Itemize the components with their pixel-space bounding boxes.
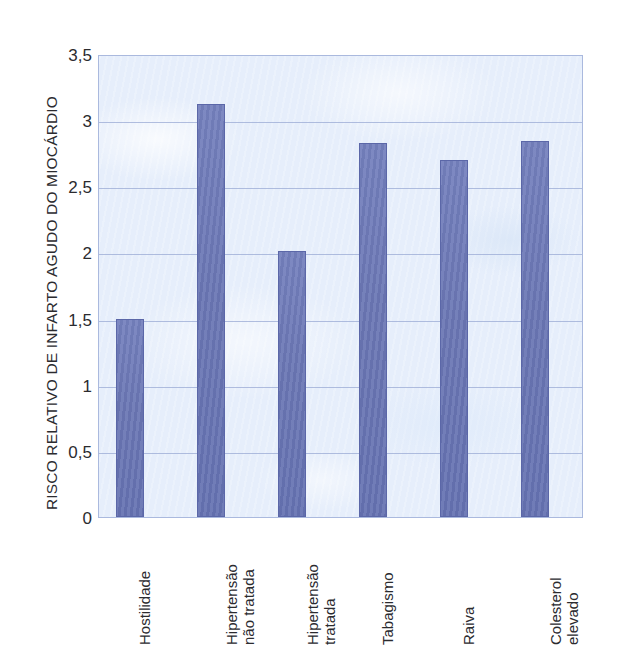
bar — [278, 251, 306, 517]
y-tick-label: 3 — [48, 113, 92, 130]
y-tick-label: 2 — [48, 245, 92, 262]
y-tick-label: 2,5 — [48, 179, 92, 196]
y-tick-label: 0,5 — [48, 444, 92, 461]
x-tick-label: Colesterol elevado — [548, 515, 574, 645]
bar-chart-figure: RISCO RELATIVO DE INFARTO AGUDO DO MIOCÁ… — [0, 0, 617, 657]
bar — [197, 104, 225, 517]
gridline — [99, 321, 582, 322]
y-tick-label: 1 — [48, 378, 92, 395]
bar — [521, 141, 549, 517]
x-tick-label: Hostilidade — [137, 515, 163, 645]
x-tick-label: Raiva — [461, 515, 487, 645]
bar — [440, 160, 468, 517]
paper-texture — [99, 56, 582, 517]
x-tick-label: Hipertensão tratada — [305, 515, 331, 645]
y-tick-label: 0 — [48, 510, 92, 527]
gridline — [99, 188, 582, 189]
x-tick-label: Hipertensão não tratada — [224, 515, 250, 645]
gridline — [99, 254, 582, 255]
x-tick-label: Tabagismo — [380, 515, 406, 645]
bar — [359, 143, 387, 517]
y-axis-tick-labels: 3,532,521,510,50 — [44, 0, 92, 657]
plot-area — [98, 55, 583, 518]
bar — [116, 319, 144, 517]
x-axis-tick-labels: HostilidadeHipertensão não tratadaHipert… — [98, 518, 583, 657]
gridline — [99, 453, 582, 454]
gridline — [99, 122, 582, 123]
y-tick-label: 1,5 — [48, 312, 92, 329]
gridline — [99, 387, 582, 388]
y-tick-label: 3,5 — [48, 47, 92, 64]
